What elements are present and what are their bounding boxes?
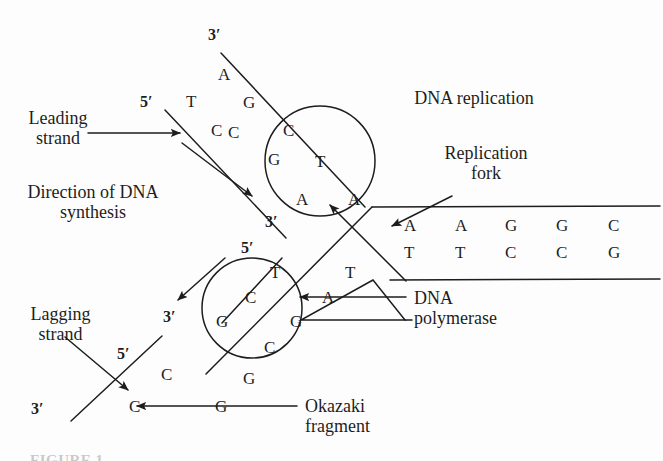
nucleotide-leading-t: T [186,92,197,111]
duplex-top-base-3: G [505,216,517,235]
nucleotide-bubble-lower-c1: C [245,288,257,307]
replication-fork-callout-arrow [392,196,452,226]
lagging-template-strand [206,207,372,374]
dna-replication-figure: DNA replication Leading strand Direction… [0,0,663,461]
dna-polymerase-wedge [301,280,405,320]
nucleotide-bubble-upper-a2: A [348,190,360,209]
nucleotide-okazaki-c1: C [161,365,173,384]
nucleotide-bubble-lower-g1: G [216,312,228,331]
duplex-top-base-4: G [556,216,568,235]
nucleotide-bubble-upper-a1: A [296,190,308,209]
nucleotide-bubble-lower-g3: G [243,369,255,388]
duplex-bottom-base-5: G [608,243,620,262]
duplex-top-base-5: C [608,216,620,235]
nucleotide-template-a: A [218,65,230,84]
direction-of-synthesis-arrow [182,143,252,196]
nucleotide-okazaki-g: G [215,397,227,416]
nucleotide-leading-c: C [211,121,223,140]
leading-strand-label: Leading strand [18,108,98,148]
nucleotide-bubble-lower-g2: G [290,312,302,331]
lagging-direction-arrow [178,258,225,300]
okazaki-fragment-label: Okazaki fragment [305,396,415,436]
prime-label-lagging-fork-5: 5′ [241,239,254,257]
nucleotide-polymerase-t: T [345,263,356,282]
duplex-bottom-base-2: T [455,243,466,262]
dna-polymerase-label: DNA polymerase [414,288,514,328]
nucleotide-bubble-lower-t: T [270,263,281,282]
duplex-top-base-2: A [455,216,467,235]
nucleotide-okazaki-c2: C [129,397,141,416]
dna-polymerase-callout-upper [330,205,406,281]
prime-label-template-top-3: 3′ [208,26,221,44]
figure-caption-clipped: FIGURE 1 [30,452,104,461]
nucleotide-bubble-lower-c2: C [264,338,276,357]
prime-label-okazaki-3: 3′ [31,400,44,418]
nucleotide-bubble-upper-c: C [283,121,295,140]
nucleotide-bubble-upper-g: G [268,150,280,169]
figure-title: DNA replication [389,88,559,108]
prime-label-lagging-mid-3: 3′ [163,308,176,326]
nucleotide-template-c: C [228,123,240,142]
prime-label-okazaki-5: 5′ [117,345,130,363]
nucleotide-polymerase-a: A [322,288,334,307]
prime-label-leading-5: 5′ [140,93,153,111]
nucleotide-template-g: G [243,93,255,112]
duplex-top-base-1: A [404,216,416,235]
duplex-top-line [372,206,660,207]
nucleotide-bubble-upper-t: T [315,152,326,171]
replication-fork-label: Replication fork [430,143,542,183]
duplex-bottom-base-1: T [404,243,415,262]
direction-of-synthesis-label: Direction of DNA synthesis [8,182,178,222]
lagging-strand-bubble [202,258,302,358]
duplex-bottom-base-4: C [556,243,568,262]
prime-label-leading-3: 3′ [265,213,278,231]
lagging-strand-label: Lagging strand [18,304,103,344]
duplex-bottom-base-3: C [505,243,517,262]
duplex-bottom-line [390,279,660,280]
